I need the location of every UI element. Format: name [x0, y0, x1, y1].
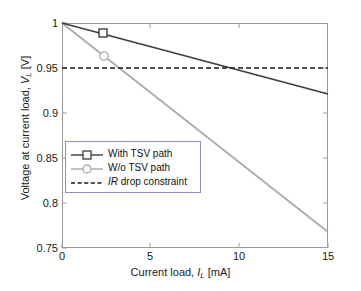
legend-item-ir-drop-constraint: IR drop constraint	[70, 174, 195, 188]
y-axis-subscript: L	[24, 72, 33, 76]
xtick-label: 0	[59, 251, 65, 262]
xtick-label: 5	[147, 251, 153, 262]
y-axis-label-suffix: [V]	[19, 56, 31, 73]
circle-marker	[83, 165, 91, 173]
legend-label: IR drop constraint	[104, 176, 187, 187]
x-axis-label-suffix: [mA]	[205, 266, 231, 278]
chart-figure: 1 0.95 0.9 0.85 0.8 0.75 0 5 10 15 Curre…	[0, 0, 361, 291]
legend-item-with-tsv-path: With TSV path	[70, 146, 195, 160]
legend-label-italic: IR	[108, 176, 118, 187]
legend-label: W/o TSV path	[104, 162, 170, 173]
legend-label-rest: drop constraint	[118, 176, 187, 187]
ytick-label: 0.95	[37, 63, 58, 74]
plot-area	[62, 23, 328, 248]
ytick-label: 1	[52, 18, 58, 29]
ytick-label: 0.9	[43, 108, 58, 119]
xtick-label: 10	[233, 251, 245, 262]
x-axis-label: Current load, IL [mA]	[0, 266, 361, 280]
ytick-label: 0.8	[43, 198, 58, 209]
legend-label: With TSV path	[104, 148, 172, 159]
square-marker	[83, 151, 91, 159]
legend-sample-square-line	[70, 147, 104, 159]
y-axis-label-prefix: Voltage at current load,	[19, 84, 31, 200]
y-axis-symbol: V	[19, 77, 31, 84]
chart-legend: With TSV path W/o TSV path IR drop const…	[65, 141, 201, 193]
y-axis-label: Voltage at current load, VL [V]	[19, 18, 33, 238]
xtick-label: 15	[322, 251, 334, 262]
legend-sample-circle-line	[70, 161, 104, 173]
ytick-label: 0.85	[37, 153, 58, 164]
legend-item-wo-tsv-path: W/o TSV path	[70, 160, 195, 174]
ytick-label: 0.75	[37, 243, 58, 254]
legend-sample-dashed-line	[70, 175, 104, 187]
x-axis-label-prefix: Current load,	[131, 266, 198, 278]
